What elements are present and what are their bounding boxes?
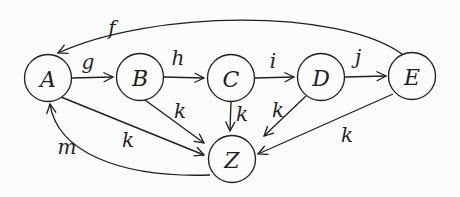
edge-label-k-B-Z: k <box>174 99 186 123</box>
edge-label-i-C-D: i <box>270 49 276 73</box>
node-label-B: B <box>131 66 148 91</box>
graph-diagram: ABCDEZfghijkkkkkm <box>0 0 460 197</box>
edge-B-C <box>164 77 204 78</box>
edge-label-j-D-E: j <box>351 45 361 69</box>
edge-label-k-C-Z: k <box>236 102 248 126</box>
edge-label-k-E-Z: k <box>341 123 353 147</box>
edge-label-f-E-A: f <box>106 16 119 40</box>
edge-C-D <box>255 77 294 78</box>
edge-A-B <box>71 77 113 78</box>
node-label-Z: Z <box>223 148 240 173</box>
graph-figure: ABCDEZfghijkkkkkm <box>0 0 460 197</box>
edge-label-k-D-Z: k <box>272 98 284 122</box>
edge-D-Z <box>264 96 306 136</box>
edge-label-g-A-B: g <box>82 50 95 74</box>
edge-label-k-A-Z: k <box>122 128 134 152</box>
edge-label-m-Z-A: m <box>58 135 77 159</box>
node-label-D: D <box>311 66 330 91</box>
edge-label-h-B-C: h <box>172 46 185 70</box>
node-label-C: C <box>223 67 240 92</box>
edge-D-E <box>345 76 386 77</box>
edge-C-Z <box>230 101 231 131</box>
node-label-A: A <box>38 67 56 92</box>
node-label-E: E <box>403 65 420 90</box>
